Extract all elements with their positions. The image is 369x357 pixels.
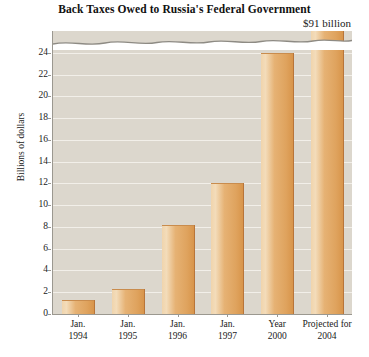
gridline (53, 183, 352, 184)
x-tick-label-line2: 1996 (150, 331, 206, 343)
y-axis-ticks: 024681012141618202224 (0, 31, 48, 314)
gridline (53, 205, 352, 206)
gridline (53, 118, 352, 119)
x-tick-label-line1: Jan. (100, 319, 156, 331)
y-tick-label: 22 (4, 70, 48, 80)
gridline (53, 270, 352, 271)
x-tick-label: Jan.1997 (199, 319, 255, 342)
gridline (53, 162, 352, 163)
x-tick-mark (128, 314, 129, 317)
x-tick-label: Jan.1995 (100, 319, 156, 342)
x-tick-label-line1: Jan. (50, 319, 106, 331)
x-tick-label: Projected for2004 (285, 319, 369, 342)
y-tick-mark (48, 227, 51, 228)
y-tick-label: 2 (4, 287, 48, 297)
y-tick-mark (48, 249, 51, 250)
y-tick-mark (48, 75, 51, 76)
x-tick-mark (78, 314, 79, 317)
x-tick-label-line1: Jan. (150, 319, 206, 331)
x-tick-mark (327, 314, 328, 317)
y-tick-mark (48, 118, 51, 119)
axis-break-marker (53, 31, 352, 50)
y-tick-label: 18 (4, 113, 48, 123)
chart-figure: Back Taxes Owed to Russia's Federal Gove… (0, 0, 369, 357)
x-axis-labels: Jan.1994Jan.1995Jan.1996Jan.1997Year2000… (53, 317, 352, 353)
y-tick-label: 16 (4, 135, 48, 145)
x-tick-mark (227, 314, 228, 317)
x-tick-label-line2: 1997 (199, 331, 255, 343)
y-tick-label: 8 (4, 222, 48, 232)
bar-jan-1996 (162, 225, 195, 314)
y-tick-mark (48, 162, 51, 163)
bar-jan-1994 (62, 300, 95, 314)
y-tick-mark (48, 96, 51, 97)
gridline (53, 249, 352, 250)
y-tick-mark (48, 205, 51, 206)
y-tick-mark (48, 183, 51, 184)
y-tick-mark (48, 53, 51, 54)
x-tick-label: Jan.1994 (50, 319, 106, 342)
y-tick-label: 6 (4, 244, 48, 254)
x-axis-line (53, 314, 352, 315)
y-tick-mark (48, 140, 51, 141)
y-tick-mark (48, 270, 51, 271)
bar-jan-1997 (211, 183, 244, 314)
x-tick-label-line2: 1994 (50, 331, 106, 343)
x-tick-label-line1: Projected for (285, 319, 369, 331)
peak-value-annotation: $91 billion (303, 17, 351, 29)
y-tick-mark (48, 292, 51, 293)
x-tick-label: Jan.1996 (150, 319, 206, 342)
y-tick-label: 14 (4, 157, 48, 167)
plot-area (53, 31, 352, 314)
gridline (53, 53, 352, 54)
y-tick-label: 12 (4, 178, 48, 188)
x-tick-label-line1: Jan. (199, 319, 255, 331)
y-tick-label: 4 (4, 265, 48, 275)
gridline (53, 140, 352, 141)
bar-projected-for-2004 (311, 31, 344, 314)
y-tick-label: 10 (4, 200, 48, 210)
bar-year-2000 (261, 53, 294, 314)
bar-jan-1995 (112, 289, 145, 314)
y-tick-label: 0 (4, 309, 48, 319)
chart-title: Back Taxes Owed to Russia's Federal Gove… (0, 3, 369, 15)
x-tick-mark (178, 314, 179, 317)
x-tick-label-line2: 2004 (285, 331, 369, 343)
gridline (53, 75, 352, 76)
gridline (53, 227, 352, 228)
x-tick-mark (277, 314, 278, 317)
y-tick-label: 20 (4, 91, 48, 101)
gridline (53, 292, 352, 293)
y-axis-line (52, 31, 53, 315)
gridline (53, 96, 352, 97)
y-tick-label: 24 (4, 48, 48, 58)
x-tick-label-line2: 1995 (100, 331, 156, 343)
y-tick-mark (48, 314, 51, 315)
